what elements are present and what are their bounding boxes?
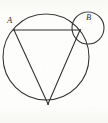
segment-b-to-bottom-vertex	[48, 30, 80, 104]
figure-canvas	[0, 0, 108, 123]
vertex-label-a: A	[7, 16, 12, 25]
geometry-figure: A B	[0, 0, 108, 123]
large-circle	[3, 14, 89, 100]
segment-a-to-bottom-vertex	[14, 30, 48, 104]
vertex-label-b: B	[86, 13, 91, 22]
